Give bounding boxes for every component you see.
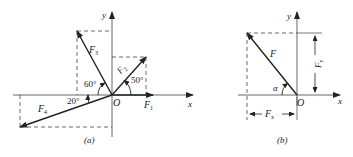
force-diagrams: x y O F1 F2 F3 F4 50° 60° 20° (a) <box>0 0 353 157</box>
figure-b: x y O F α Fx Fy (b) <box>238 11 342 145</box>
angle-label-f4: 20° <box>67 96 80 106</box>
force-f-label: F <box>269 48 277 59</box>
x-axis-label-a: x <box>187 99 192 109</box>
projection-lines-b <box>247 33 297 120</box>
x-axis-label-b: x <box>337 96 342 106</box>
force-f3-label: F3 <box>88 44 98 56</box>
figure-a: x y O F1 F2 F3 F4 50° 60° 20° (a) <box>13 10 193 145</box>
angle-arc-alpha <box>282 83 288 95</box>
origin-label-a: O <box>113 97 120 108</box>
force-f4-arrow <box>20 95 112 127</box>
angle-arc-f3 <box>98 83 105 95</box>
angle-label-f2: 50° <box>131 75 144 85</box>
caption-a: (a) <box>84 135 95 145</box>
force-f2-label: F2 <box>114 63 128 77</box>
force-f4-label: F4 <box>37 103 47 115</box>
angle-label-f3: 60° <box>84 79 97 89</box>
force-f1-label: F1 <box>143 99 153 111</box>
y-axis-label-a: y <box>101 10 106 20</box>
angle-arc-f4 <box>88 95 89 103</box>
origin-label-b: O <box>297 97 304 108</box>
angle-label-alpha: α <box>273 83 278 93</box>
angle-arc-f2 <box>124 81 131 96</box>
caption-b: (b) <box>277 135 288 145</box>
force-f-arrow <box>247 33 297 95</box>
y-axis-label-b: y <box>286 11 291 21</box>
